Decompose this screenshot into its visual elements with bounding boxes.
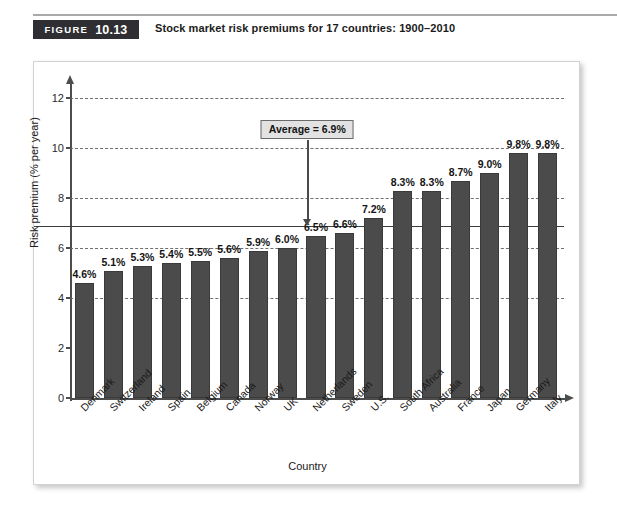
bar-value-label: 5.1%	[101, 256, 125, 268]
y-axis-title: Risk premium (% per year)	[28, 117, 40, 248]
bar[interactable]	[393, 191, 412, 399]
bar[interactable]	[249, 251, 268, 399]
bar[interactable]	[538, 153, 557, 398]
bar[interactable]	[220, 258, 239, 398]
bar[interactable]	[509, 153, 528, 398]
bar-value-label: 9.8%	[536, 138, 560, 150]
y-tick-label: 10	[38, 142, 64, 154]
y-axis-arrow-icon	[66, 75, 74, 84]
x-axis-title: Country	[34, 460, 581, 472]
bar[interactable]	[306, 236, 325, 399]
bar-value-label: 9.8%	[507, 138, 531, 150]
bar-value-label: 6.0%	[275, 233, 299, 245]
bar-value-label: 8.3%	[391, 176, 415, 188]
average-callout-box: Average = 6.9%	[261, 120, 354, 139]
y-tick-label: 0	[38, 392, 64, 404]
bar[interactable]	[364, 218, 383, 398]
y-tick-label: 2	[38, 342, 64, 354]
average-callout-stem	[307, 140, 308, 219]
y-tick-label: 6	[38, 242, 64, 254]
bar[interactable]	[162, 263, 181, 398]
plot-area: 4.6%5.1%5.3%5.4%5.5%5.6%5.9%6.0%6.5%6.6%…	[70, 98, 562, 398]
bar-value-label: 6.6%	[333, 218, 357, 230]
bar-value-label: 5.4%	[159, 248, 183, 260]
bar-value-label: 9.0%	[478, 158, 502, 170]
bar-value-label: 5.9%	[246, 236, 270, 248]
figure-badge-number: 10.13	[95, 23, 127, 37]
header-rule	[33, 14, 617, 16]
bar-value-label: 4.6%	[73, 268, 97, 280]
x-axis-arrow-icon	[565, 394, 574, 402]
bar[interactable]	[480, 173, 499, 398]
bar-value-label: 8.3%	[420, 176, 444, 188]
bar[interactable]	[278, 248, 297, 398]
bar-value-label: 8.7%	[449, 166, 473, 178]
chart-panel: 024681012 4.6%5.1%5.3%5.4%5.5%5.6%5.9%6.…	[33, 61, 580, 485]
bar-value-label: 5.5%	[188, 246, 212, 258]
y-tick-label: 12	[38, 92, 64, 104]
figure-page: FIGURE 10.13 Stock market risk premiums …	[0, 0, 617, 510]
bar-value-label: 7.2%	[362, 203, 386, 215]
average-callout-arrow-icon	[303, 219, 311, 226]
figure-badge-word: FIGURE	[45, 24, 89, 35]
figure-caption: Stock market risk premiums for 17 countr…	[155, 22, 455, 34]
bar-value-label: 5.6%	[217, 243, 241, 255]
figure-badge: FIGURE 10.13	[33, 20, 139, 39]
y-tick-label: 8	[38, 192, 64, 204]
bar-value-label: 5.3%	[130, 251, 154, 263]
bar[interactable]	[75, 283, 94, 398]
y-tick-label: 4	[38, 292, 64, 304]
bar[interactable]	[451, 181, 470, 399]
bar[interactable]	[191, 261, 210, 399]
